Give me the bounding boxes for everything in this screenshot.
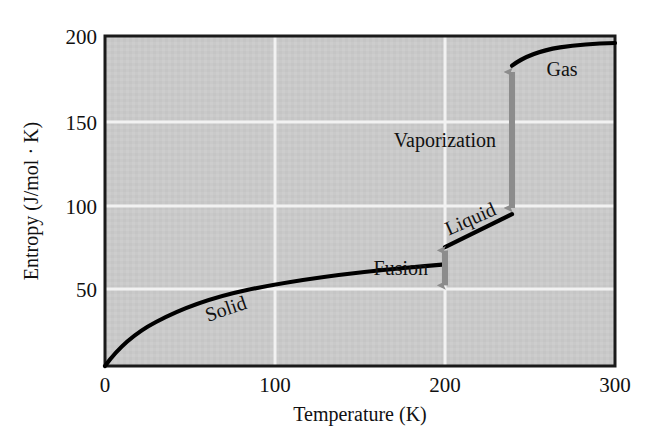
gas-phase-label: Gas [546,58,577,80]
y-tick-label-100: 100 [66,195,98,219]
x-tick-label-100: 100 [259,373,291,397]
entropy-phase-diagram-figure: 200 150 100 50 0 100 200 300 Temperature… [0,0,655,438]
x-tick-label-300: 300 [599,373,631,397]
y-tick-label-200: 200 [66,25,98,49]
x-tick-label-200: 200 [429,373,461,397]
vaporization-transition-label: Vaporization [394,129,496,152]
y-tick-label-50: 50 [76,278,97,302]
chart-canvas: 200 150 100 50 0 100 200 300 Temperature… [0,0,655,438]
x-tick-label-0: 0 [100,373,111,397]
x-axis-title: Temperature (K) [293,403,427,426]
y-tick-label-150: 150 [66,111,98,135]
y-axis-title: Entropy (J/mol · K) [20,122,43,280]
fusion-transition-label: Fusion [374,257,428,279]
plot-area-background [105,36,615,366]
